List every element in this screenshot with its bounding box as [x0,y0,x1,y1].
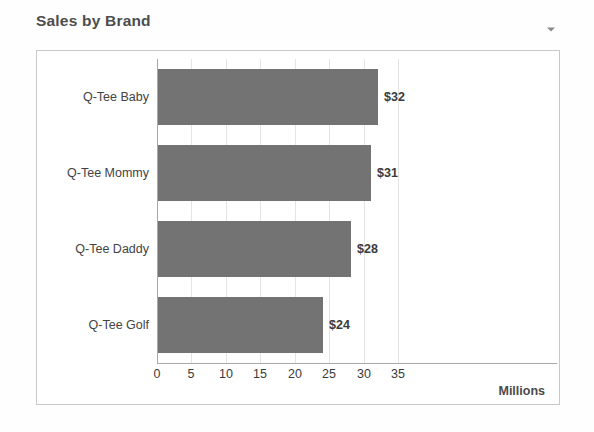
axis-tick-label: 20 [288,367,302,381]
sales-by-brand-chart-widget: Sales by Brand Q-Tee Baby [0,0,594,432]
bar-value-label: $24 [329,318,350,332]
bar[interactable] [158,145,371,201]
bar[interactable] [158,297,323,353]
chart-row: Q-Tee Daddy $28 [37,211,559,287]
chart-header: Sales by Brand [0,12,594,42]
chart-row: Q-Tee Golf $24 [37,287,559,363]
category-label: Q-Tee Daddy [37,242,149,256]
axis-tick-label: 15 [253,367,267,381]
plot-area: Q-Tee Baby $32 Q-Tee Mommy $31 Q-Tee Dad… [37,51,559,404]
chart-row: Q-Tee Baby $32 [37,59,559,135]
axis-unit-label: Millions [498,384,545,398]
value-axis-tick-labels: 0 5 10 15 20 25 30 35 [37,367,559,387]
chevron-down-icon[interactable] [544,22,558,36]
bar-value-label: $32 [384,90,405,104]
bar[interactable] [158,69,378,125]
axis-tick-label: 0 [154,367,161,381]
axis-tick-label: 25 [322,367,336,381]
axis-tick-label: 35 [391,367,405,381]
category-label: Q-Tee Golf [37,318,149,332]
chart-row: Q-Tee Mommy $31 [37,135,559,211]
category-label: Q-Tee Mommy [37,166,149,180]
page-title: Sales by Brand [36,12,151,30]
axis-tick-label: 5 [188,367,195,381]
axis-tick-label: 10 [219,367,233,381]
category-label: Q-Tee Baby [37,90,149,104]
bar-value-label: $31 [377,166,398,180]
chart-plot-frame: Q-Tee Baby $32 Q-Tee Mommy $31 Q-Tee Dad… [36,50,560,405]
axis-tick-label: 30 [357,367,371,381]
bar[interactable] [158,221,351,277]
bar-value-label: $28 [357,242,378,256]
bar-series: Q-Tee Baby $32 Q-Tee Mommy $31 Q-Tee Dad… [37,51,559,404]
